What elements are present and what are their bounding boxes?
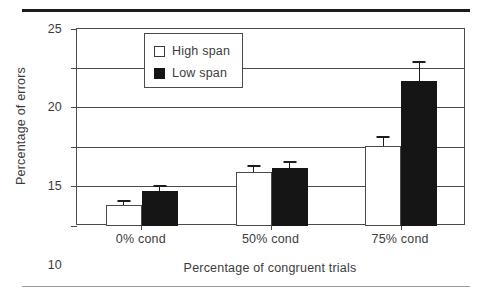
y-axis-title: Percentage of errors bbox=[14, 67, 28, 185]
error-bar-cap-1-0 bbox=[247, 165, 260, 167]
y-tick-label-25: 25 bbox=[48, 22, 62, 36]
x-tick-label-0: 0% cond bbox=[116, 232, 166, 246]
bar-50-cond-low-span bbox=[272, 168, 308, 226]
bar-0-cond-high-span bbox=[106, 205, 142, 226]
y-tick-15: 15 bbox=[71, 107, 77, 108]
legend-swatch-filled-square-icon bbox=[154, 68, 165, 79]
x-tick-label-1: 50% cond bbox=[242, 232, 299, 246]
bar-75-cond-low-span bbox=[401, 81, 437, 226]
legend-label-low-span: Low span bbox=[172, 66, 227, 80]
plot-area: 0510152025 bbox=[76, 28, 465, 225]
gridline-y-20 bbox=[77, 68, 464, 69]
error-bar-cap-2-1 bbox=[413, 61, 426, 63]
x-tick-label-2: 75% cond bbox=[372, 232, 429, 246]
figure-container: 0510152025 0% cond50% cond75% cond Perce… bbox=[0, 0, 492, 299]
bar-0-cond-low-span bbox=[142, 191, 178, 226]
bar-75-cond-high-span bbox=[365, 146, 401, 226]
y-tick-25: 25 bbox=[71, 29, 77, 30]
y-tick-20: 20 bbox=[71, 68, 77, 69]
legend-swatch-open-square-icon bbox=[154, 46, 165, 57]
legend-entry-high-span: High span bbox=[154, 41, 242, 61]
figure-bottom-rule bbox=[22, 286, 470, 287]
bar-50-cond-high-span bbox=[236, 172, 272, 226]
x-axis-title: Percentage of congruent trials bbox=[184, 261, 357, 275]
y-tick-0: 0 bbox=[71, 226, 77, 227]
error-bar-cap-1-1 bbox=[283, 161, 296, 163]
legend-label-high-span: High span bbox=[172, 44, 230, 58]
y-tick-label-10: 10 bbox=[48, 258, 62, 272]
chart-legend: High span Low span bbox=[144, 33, 243, 88]
y-tick-5: 5 bbox=[71, 186, 77, 187]
legend-entry-low-span: Low span bbox=[154, 63, 242, 83]
y-tick-10: 10 bbox=[71, 147, 77, 148]
error-bar-cap-0-0 bbox=[117, 200, 130, 202]
figure-top-rule bbox=[22, 9, 470, 12]
y-tick-label-20: 20 bbox=[48, 100, 62, 114]
error-bar-cap-0-1 bbox=[153, 185, 166, 187]
y-tick-label-15: 15 bbox=[48, 179, 62, 193]
error-bar-line-2-1 bbox=[419, 61, 420, 81]
error-bar-cap-2-0 bbox=[377, 136, 390, 138]
